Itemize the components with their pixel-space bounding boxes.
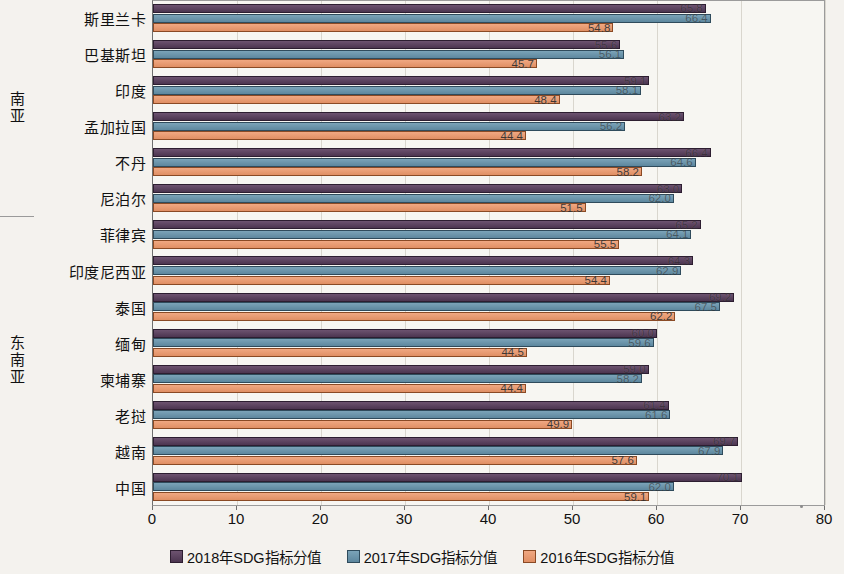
bar-value-label: 63.2 <box>658 111 680 123</box>
bar-2017 <box>153 302 720 311</box>
bar-value-label: 48.4 <box>534 94 556 106</box>
x-tick-label: 40 <box>480 510 497 527</box>
bar-value-label: 44.4 <box>501 382 523 394</box>
x-axis: 01020304050607080 <box>152 506 825 536</box>
x-tick-label: 20 <box>312 510 329 527</box>
stray-mark <box>800 505 803 508</box>
x-tick-label: 30 <box>396 510 413 527</box>
bar-group: 66.464.658.2 <box>153 148 825 176</box>
gridline <box>825 0 826 505</box>
legend-item[interactable]: 2016年SDG指标分值 <box>523 546 674 567</box>
bar-group: 64.362.954.4 <box>153 256 825 284</box>
group-axis: 南亚东南亚 <box>0 0 34 505</box>
bar-2017 <box>153 374 642 383</box>
x-tick-label: 60 <box>648 510 665 527</box>
bar-value-label: 64.6 <box>670 156 692 168</box>
bar-value-label: 49.9 <box>547 418 569 430</box>
bar-2016 <box>153 420 572 429</box>
legend-label: 2017年SDG指标分值 <box>364 546 498 567</box>
bar-2016 <box>153 312 675 321</box>
legend-item[interactable]: 2017年SDG指标分值 <box>347 546 498 567</box>
bar-group: 65.264.155.5 <box>153 220 825 248</box>
bar-value-label: 57.6 <box>611 454 633 466</box>
legend-swatch-icon <box>347 550 360 563</box>
bar-value-label: 59.1 <box>624 491 646 503</box>
bar-2017 <box>153 50 624 59</box>
category-label: 柬埔寨 <box>100 368 147 389</box>
bar-2018 <box>153 365 649 374</box>
legend-swatch-icon <box>523 550 536 563</box>
bar-2016 <box>153 384 526 393</box>
group-label: 东南亚 <box>2 216 32 505</box>
bar-2018 <box>153 4 706 13</box>
legend-label: 2018年SDG指标分值 <box>187 546 321 567</box>
bar-2018 <box>153 40 620 49</box>
legend-item[interactable]: 2018年SDG指标分值 <box>170 546 321 567</box>
bar-value-label: 66.4 <box>685 12 707 24</box>
x-tick-label: 10 <box>228 510 245 527</box>
bar-2016 <box>153 276 610 285</box>
bar-value-label: 54.4 <box>585 274 607 286</box>
category-label: 印度 <box>115 80 146 101</box>
x-tick-label: 50 <box>564 510 581 527</box>
bar-2017 <box>153 14 711 23</box>
plot-area: 65.866.454.855.656.145.759.158.148.463.2… <box>152 0 825 506</box>
category-label: 巴基斯坦 <box>84 44 146 65</box>
category-label: 斯里兰卡 <box>84 8 146 29</box>
bar-group: 59.158.148.4 <box>153 76 825 104</box>
bar-group: 63.256.244.4 <box>153 112 825 140</box>
bar-value-label: 62.0 <box>648 481 670 493</box>
category-label: 老挝 <box>115 404 146 425</box>
bar-value-label: 62.0 <box>648 192 670 204</box>
bar-group: 69.267.562.2 <box>153 293 825 321</box>
category-label: 泰国 <box>115 296 146 317</box>
bar-2016 <box>153 348 527 357</box>
category-label: 中国 <box>115 476 146 497</box>
bar-value-label: 64.1 <box>666 228 688 240</box>
bar-2016 <box>153 23 613 32</box>
bar-group: 63.062.051.5 <box>153 184 825 212</box>
bar-value-label: 44.5 <box>501 346 523 358</box>
category-label: 不丹 <box>115 152 146 173</box>
bar-2018 <box>153 184 682 193</box>
bar-2017 <box>153 410 670 419</box>
bar-2016 <box>153 240 619 249</box>
bar-2016 <box>153 456 637 465</box>
bar-group: 61.461.649.9 <box>153 401 825 429</box>
bar-group: 59.058.244.4 <box>153 365 825 393</box>
bar-2018 <box>153 148 711 157</box>
bar-group: 69.767.957.6 <box>153 437 825 465</box>
x-tick-label: 0 <box>148 510 156 527</box>
bar-value-label: 62.2 <box>650 310 672 322</box>
bar-value-label: 62.9 <box>656 265 678 277</box>
x-tick-label: 80 <box>816 510 833 527</box>
bar-value-label: 56.2 <box>600 120 622 132</box>
category-axis: 斯里兰卡巴基斯坦印度孟加拉国不丹尼泊尔菲律宾印度尼西亚泰国缅甸柬埔寨老挝越南中国 <box>34 0 152 505</box>
bar-2018 <box>153 437 738 446</box>
bar-value-label: 51.5 <box>560 202 582 214</box>
bar-value-label: 67.5 <box>695 301 717 313</box>
bar-value-label: 70.1 <box>716 471 738 483</box>
bar-2016 <box>153 95 560 104</box>
group-separator <box>0 216 34 217</box>
category-label: 越南 <box>115 440 146 461</box>
bar-group: 65.866.454.8 <box>153 4 825 32</box>
bar-value-label: 45.7 <box>511 58 533 70</box>
category-label: 缅甸 <box>115 332 146 353</box>
bar-2016 <box>153 131 526 140</box>
bar-group: 70.162.059.1 <box>153 473 825 501</box>
bar-value-label: 58.2 <box>616 166 638 178</box>
bar-value-label: 44.4 <box>501 130 523 142</box>
category-label: 菲律宾 <box>100 224 147 245</box>
bar-2017 <box>153 482 674 491</box>
bar-2018 <box>153 76 649 85</box>
bar-2016 <box>153 492 649 501</box>
chart-legend: 2018年SDG指标分值2017年SDG指标分值2016年SDG指标分值 <box>0 543 844 569</box>
bar-2017 <box>153 194 674 203</box>
category-label: 孟加拉国 <box>84 116 146 137</box>
bar-2018 <box>153 293 734 302</box>
category-label: 印度尼西亚 <box>69 260 147 281</box>
bar-value-label: 56.1 <box>599 48 621 60</box>
bar-group: 60.059.644.5 <box>153 329 825 357</box>
bar-chart: 南亚东南亚 斯里兰卡巴基斯坦印度孟加拉国不丹尼泊尔菲律宾印度尼西亚泰国缅甸柬埔寨… <box>0 0 844 574</box>
